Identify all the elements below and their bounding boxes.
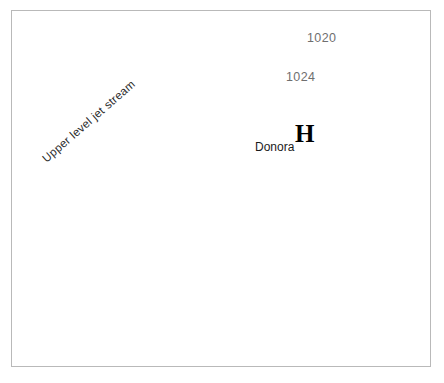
- isobar-1020-label: 1020: [307, 31, 336, 45]
- isobar-1024-label: 1024: [286, 70, 315, 84]
- high-pressure-symbol: H: [295, 121, 314, 146]
- donora-city-label: Donora: [255, 140, 294, 154]
- map-border-frame: [11, 10, 431, 367]
- weather-map-figure: 1020 1024 H Donora Upper level jet strea…: [0, 0, 444, 383]
